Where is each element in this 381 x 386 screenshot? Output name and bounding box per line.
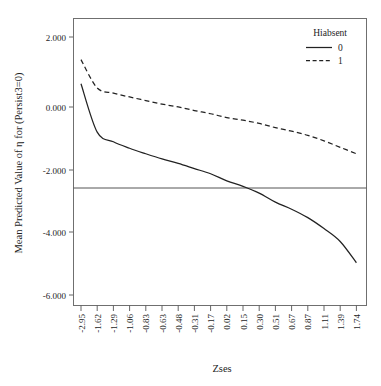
x-tick-label: 0.15 xyxy=(239,314,249,330)
legend: Hiabsent 0 1 xyxy=(306,28,347,66)
x-axis-title: Zses xyxy=(212,363,231,374)
legend-label-0: 0 xyxy=(338,43,343,53)
y-tick-label: -6.000 xyxy=(43,291,67,301)
x-tick-label: -0.63 xyxy=(158,314,168,333)
x-tick-label: 0.30 xyxy=(255,314,265,330)
x-tick-label: -0.48 xyxy=(174,314,184,333)
x-tick-label: 1.39 xyxy=(336,314,346,330)
chart-figure: Mean Predicted Value of η for (Persist3=… xyxy=(0,0,381,386)
x-tick-label: -2.95 xyxy=(77,314,87,333)
y-tick-labels: 2.000 0.000 -2.000 -4.000 -6.000 xyxy=(43,33,67,301)
x-tick-label: 0.67 xyxy=(287,314,297,330)
y-tick-label: -4.000 xyxy=(43,228,67,238)
y-tick-label: -2.000 xyxy=(43,166,67,176)
x-tick-label: 1.74 xyxy=(352,314,362,330)
legend-title: Hiabsent xyxy=(313,28,347,38)
x-tick-label: -0.17 xyxy=(206,314,216,333)
series-line-1 xyxy=(81,60,356,154)
plot-frame xyxy=(74,19,367,306)
y-axis-title: Mean Predicted Value of η for (Persist3=… xyxy=(13,72,25,253)
x-tick-labels: -2.95 -1.62 -1.29 -1.06 -0.83 -0.63 -0.4… xyxy=(77,314,362,333)
x-tick-label: -1.62 xyxy=(93,314,103,333)
line-chart: Mean Predicted Value of η for (Persist3=… xyxy=(0,0,381,386)
x-tick-label: -0.83 xyxy=(141,314,151,333)
x-tick-label: -1.29 xyxy=(109,314,119,333)
series-line-0 xyxy=(81,84,356,263)
x-tick-label: -1.06 xyxy=(125,314,135,333)
x-tick-label: 0.87 xyxy=(303,314,313,330)
x-tick-label: -0.31 xyxy=(190,314,200,333)
y-tick-label: 2.000 xyxy=(46,33,67,43)
legend-label-1: 1 xyxy=(338,56,343,66)
x-tick-label: 1.11 xyxy=(320,314,330,329)
x-tick-label: 0.02 xyxy=(222,314,232,330)
x-tick-marks xyxy=(81,306,356,312)
y-tick-label: 0.000 xyxy=(46,103,67,113)
x-tick-label: 0.51 xyxy=(271,314,281,330)
